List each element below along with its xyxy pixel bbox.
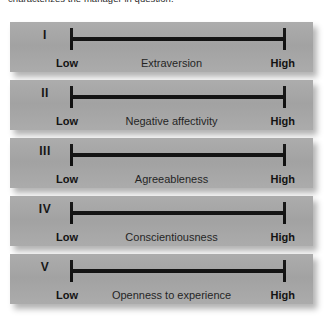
scale-trait-label-2: Negative affectivity: [96, 115, 247, 127]
clipped-body-text: characterizes the manager in question.: [8, 0, 308, 6]
scale-panel-5: V Low Openness to experience High: [10, 254, 313, 304]
scale-low-label-1: Low: [56, 57, 78, 69]
scale-tick-high-4: [283, 202, 286, 224]
scale-axis-3: [70, 144, 286, 166]
scale-numeral-3: III: [20, 144, 70, 158]
scale-panel-1: I Low Extraversion High: [10, 22, 313, 72]
clipped-body-text-line: characterizes the manager in question.: [8, 0, 308, 5]
scale-tick-low-4: [70, 202, 73, 224]
scale-tick-high-1: [283, 28, 286, 50]
scale-labels-4: Low Conscientiousness High: [10, 226, 313, 243]
scale-tick-low-1: [70, 28, 73, 50]
scale-high-label-5: High: [271, 289, 295, 301]
scale-low-label-2: Low: [56, 115, 78, 127]
scale-tick-low-2: [70, 86, 73, 108]
scale-tick-low-3: [70, 144, 73, 166]
scale-panel-4: IV Low Conscientiousness High: [10, 196, 313, 246]
scale-high-label-2: High: [271, 115, 295, 127]
scale-numeral-5: V: [20, 260, 70, 274]
scale-numeral-2: II: [20, 86, 70, 100]
scale-numeral-1: I: [20, 28, 70, 42]
scale-line-4: [70, 211, 286, 215]
scale-trait-label-5: Openness to experience: [96, 289, 247, 301]
scale-labels-2: Low Negative affectivity High: [10, 110, 313, 127]
scale-high-label-4: High: [271, 231, 295, 243]
scale-axis-1: [70, 28, 286, 50]
scale-line-5: [70, 269, 286, 273]
scale-line-1: [70, 37, 286, 41]
scale-trait-label-4: Conscientiousness: [96, 231, 247, 243]
scale-trait-label-3: Agreeableness: [96, 173, 247, 185]
scale-low-label-4: Low: [56, 231, 78, 243]
scale-labels-1: Low Extraversion High: [10, 52, 313, 69]
scale-high-label-1: High: [271, 57, 295, 69]
scale-tick-high-2: [283, 86, 286, 108]
figure-container: characterizes the manager in question. I…: [0, 0, 327, 335]
scale-tick-high-3: [283, 144, 286, 166]
scale-low-label-5: Low: [56, 289, 78, 301]
scale-axis-2: [70, 86, 286, 108]
scale-tick-low-5: [70, 260, 73, 282]
scale-line-3: [70, 153, 286, 157]
scale-panel-3: III Low Agreeableness High: [10, 138, 313, 188]
scale-axis-5: [70, 260, 286, 282]
scale-labels-5: Low Openness to experience High: [10, 284, 313, 301]
scale-tick-high-5: [283, 260, 286, 282]
scale-axis-4: [70, 202, 286, 224]
scale-numeral-4: IV: [20, 202, 70, 216]
scale-line-2: [70, 95, 286, 99]
scale-panel-2: II Low Negative affectivity High: [10, 80, 313, 130]
scale-labels-3: Low Agreeableness High: [10, 168, 313, 185]
scale-low-label-3: Low: [56, 173, 78, 185]
scale-high-label-3: High: [271, 173, 295, 185]
scale-trait-label-1: Extraversion: [96, 57, 247, 69]
